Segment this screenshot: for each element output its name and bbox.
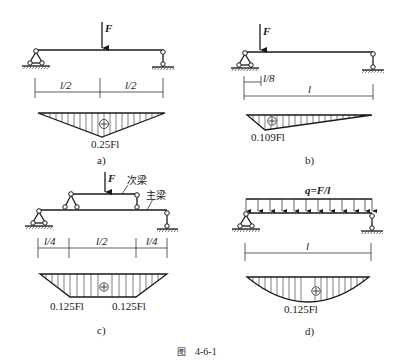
pin-support-icon bbox=[22, 49, 50, 69]
caption-number: 4-6-1 bbox=[195, 346, 217, 357]
plus-sign-icon bbox=[100, 120, 109, 129]
pin-support-icon bbox=[231, 51, 259, 71]
panel-d: q=F/l bbox=[232, 184, 383, 338]
pin-support-icon bbox=[25, 209, 53, 229]
panel-label-c: c) bbox=[97, 324, 106, 337]
force-arrow-icon: F bbox=[105, 172, 116, 192]
dimension-label: l bbox=[308, 83, 311, 95]
plus-sign-icon bbox=[268, 117, 276, 125]
dimension-lines: l bbox=[245, 240, 371, 261]
figure-caption: 图 4-6-1 bbox=[177, 346, 217, 357]
force-label: F bbox=[262, 25, 271, 37]
dimension-lines: l/2 l/2 bbox=[35, 78, 163, 98]
dimension-label: l/2 bbox=[96, 235, 108, 247]
force-arrow-icon: F bbox=[102, 22, 113, 48]
roller-support-icon bbox=[362, 52, 384, 73]
plus-sign-icon bbox=[100, 283, 108, 291]
main-beam-label: 主梁 bbox=[146, 189, 166, 201]
dimension-label: l/4 bbox=[44, 235, 56, 247]
moment-diagram-c: 0.125Fl 0.125Fl bbox=[40, 272, 167, 312]
moment-right-label: 0.125Fl bbox=[112, 300, 146, 312]
moment-left-label: 0.125Fl bbox=[50, 300, 84, 312]
panel-label-b: b) bbox=[305, 154, 315, 167]
distributed-load-arrows-icon bbox=[246, 199, 372, 211]
roller-support-icon bbox=[361, 214, 383, 234]
dimension-lines: l/8 l bbox=[244, 72, 373, 100]
figure-canvas: F l/2 l/2 bbox=[0, 0, 406, 364]
moment-max-label: 0.125Fl bbox=[284, 303, 318, 315]
leader-line bbox=[122, 185, 128, 194]
panel-label-d: d) bbox=[305, 325, 315, 338]
dimension-lines: l/4 l/2 l/4 bbox=[38, 235, 167, 258]
dimension-label: l/8 bbox=[263, 72, 275, 84]
dimension-label: l/2 bbox=[125, 79, 137, 91]
force-label: F bbox=[107, 172, 116, 184]
panel-c: F 次梁 主梁 l/4 l/2 l/4 bbox=[25, 172, 178, 337]
caption-prefix: 图 bbox=[177, 347, 186, 357]
pin-support-icon bbox=[232, 212, 260, 232]
panel-label-a: a) bbox=[97, 154, 106, 167]
moment-diagram-b: 0.109Fl bbox=[247, 113, 372, 143]
plus-sign-icon bbox=[312, 287, 320, 295]
dimension-label: l/4 bbox=[146, 235, 158, 247]
force-arrow-icon: F bbox=[260, 24, 271, 50]
dimension-label: l/2 bbox=[60, 79, 72, 91]
moment-max-label: 0.25Fl bbox=[91, 138, 119, 150]
panel-b: F l/8 l bbox=[231, 24, 384, 167]
roller-support-icon bbox=[135, 193, 140, 210]
panel-a: F l/2 l/2 bbox=[22, 22, 174, 167]
moment-diagram-a: 0.25Fl bbox=[38, 113, 165, 150]
roller-support-icon bbox=[157, 211, 178, 232]
distributed-load-label: q=F/l bbox=[305, 184, 331, 196]
roller-support-icon bbox=[152, 50, 174, 70]
secondary-beam-label: 次梁 bbox=[127, 174, 147, 186]
force-label: F bbox=[104, 22, 113, 34]
moment-diagram-d: 0.125Fl bbox=[247, 275, 369, 315]
moment-max-label: 0.109Fl bbox=[251, 131, 285, 143]
dimension-label: l bbox=[306, 240, 309, 252]
